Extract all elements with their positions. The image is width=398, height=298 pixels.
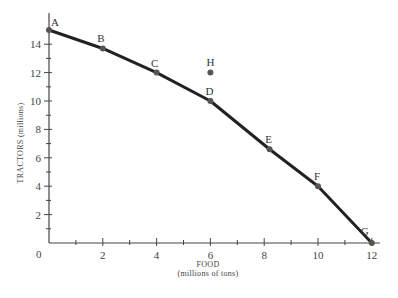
x-tick-label: 12 (366, 249, 377, 261)
point-c (154, 70, 160, 76)
point-h (207, 70, 213, 76)
point-e (267, 146, 273, 152)
y-axis-title: TRACTORS (millions) (16, 103, 25, 184)
x-axis-subtitle: (millions of tons) (178, 269, 239, 278)
point-d (207, 98, 213, 104)
origin-label: 0 (36, 248, 42, 260)
x-tick-label: 8 (261, 249, 267, 261)
y-tick-label: 2 (36, 209, 42, 221)
y-tick-label: 8 (36, 123, 42, 135)
x-tick-label: 2 (100, 249, 106, 261)
point-f (315, 183, 321, 189)
point-label-h: H (206, 56, 214, 68)
y-tick-label: 14 (30, 38, 42, 50)
y-tick-label: 10 (30, 95, 42, 107)
point-label-c: C (151, 57, 158, 69)
point-b (100, 45, 106, 51)
point-label-f: F (314, 170, 320, 182)
point-label-e: E (265, 133, 272, 145)
data-points: ABCDEFGH (46, 16, 375, 246)
point-label-a: A (51, 16, 59, 28)
x-tick-label: 10 (313, 249, 325, 261)
point-label-b: B (97, 32, 104, 44)
y-tick-label: 12 (30, 67, 41, 79)
point-label-d: D (205, 85, 213, 97)
x-axis-title: FOOD (197, 260, 220, 269)
y-tick-label: 6 (36, 152, 42, 164)
tick-labels: 246810122468101214 (30, 38, 377, 261)
point-g (369, 240, 375, 246)
ppf-chart: 246810122468101214 ABCDEFGH 0 FOOD (mill… (0, 0, 398, 298)
point-label-g: G (361, 225, 369, 237)
x-tick-label: 4 (154, 249, 160, 261)
y-tick-label: 4 (36, 180, 42, 192)
